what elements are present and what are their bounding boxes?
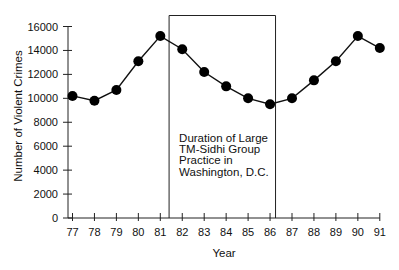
x-tick-label: 79 bbox=[110, 226, 122, 238]
violent-crimes-chart: 0200040006000800010000120001400016000 77… bbox=[0, 0, 399, 270]
data-point-marker bbox=[353, 31, 363, 41]
x-tick-label: 80 bbox=[132, 226, 144, 238]
y-tick-label: 14000 bbox=[27, 44, 58, 56]
y-axis: 0200040006000800010000120001400016000 bbox=[27, 21, 72, 225]
x-tick-label: 87 bbox=[286, 226, 298, 238]
x-tick-label: 81 bbox=[154, 226, 166, 238]
data-point-marker bbox=[89, 96, 99, 106]
annotation-text-line: Practice in bbox=[179, 154, 233, 166]
data-point-marker bbox=[331, 56, 341, 66]
x-tick-label: 78 bbox=[88, 226, 100, 238]
x-tick-label: 77 bbox=[66, 226, 78, 238]
x-tick-label: 89 bbox=[330, 226, 342, 238]
data-point-marker bbox=[309, 75, 319, 85]
data-point-marker bbox=[177, 44, 187, 54]
x-tick-label: 90 bbox=[352, 226, 364, 238]
x-axis: 777879808182838485868788899091 bbox=[66, 213, 386, 238]
y-axis-label: Number of Violent Crimes bbox=[12, 50, 24, 182]
y-tick-label: 2000 bbox=[34, 188, 58, 200]
data-point-marker bbox=[221, 81, 231, 91]
x-tick-label: 83 bbox=[198, 226, 210, 238]
y-tick-label: 0 bbox=[52, 212, 58, 224]
data-point-marker bbox=[265, 99, 275, 109]
x-tick-label: 88 bbox=[308, 226, 320, 238]
y-tick-label: 12000 bbox=[27, 68, 58, 80]
y-tick-label: 16000 bbox=[27, 21, 58, 33]
data-point-marker bbox=[243, 93, 253, 103]
data-series bbox=[68, 31, 385, 109]
x-tick-label: 85 bbox=[242, 226, 254, 238]
annotation-text-line: Washington, D.C. bbox=[179, 166, 269, 178]
x-tick-label: 82 bbox=[176, 226, 188, 238]
data-point-marker bbox=[155, 31, 165, 41]
data-point-marker bbox=[111, 85, 121, 95]
x-tick-label: 91 bbox=[374, 226, 386, 238]
annotation-text-line: TM-Sidhi Group bbox=[179, 143, 260, 155]
y-tick-label: 6000 bbox=[34, 140, 58, 152]
annotation-text-line: Duration of Large bbox=[179, 132, 268, 144]
data-point-marker bbox=[133, 56, 143, 66]
x-tick-label: 86 bbox=[264, 226, 276, 238]
data-point-marker bbox=[287, 93, 297, 103]
data-point-marker bbox=[375, 43, 385, 53]
y-tick-label: 8000 bbox=[34, 116, 58, 128]
x-tick-label: 84 bbox=[220, 226, 232, 238]
data-point-marker bbox=[68, 91, 78, 101]
chart-canvas: 0200040006000800010000120001400016000 77… bbox=[0, 0, 399, 270]
x-axis-label: Year bbox=[212, 247, 235, 259]
y-tick-label: 10000 bbox=[27, 92, 58, 104]
data-point-marker bbox=[199, 67, 209, 77]
y-tick-label: 4000 bbox=[34, 164, 58, 176]
